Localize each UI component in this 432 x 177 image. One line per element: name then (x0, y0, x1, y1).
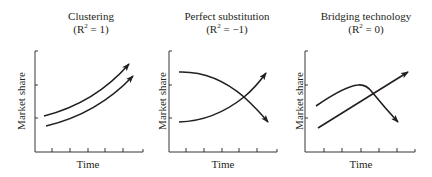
plot-area (0, 0, 150, 177)
panel-perfect-substitution: Perfect substitution (R2 = −1) Market sh… (134, 0, 284, 177)
panel-bridging-technology: Bridging technology (R2 = 0) Market shar… (270, 0, 432, 177)
curve-lower (46, 76, 133, 126)
plot-area (134, 0, 284, 177)
curve-upper (44, 64, 129, 116)
curve-linear-rising (318, 72, 408, 128)
panel-clustering: Clustering (R2 = 1) Market share Time (0, 0, 150, 177)
axes (169, 51, 277, 152)
plot-area (270, 0, 432, 177)
curve-declining (179, 72, 268, 122)
curve-rising (179, 73, 266, 122)
